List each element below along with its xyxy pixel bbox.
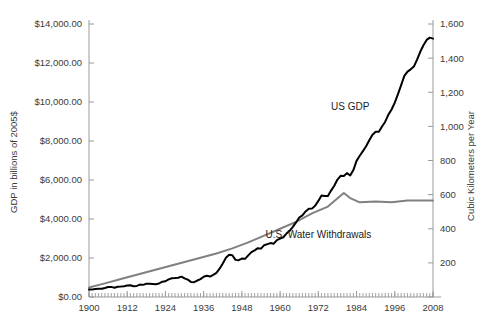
gdp-water-line-chart: $0.00$2,000.00$4,000.00$6,000.00$8,000.0… [0, 0, 492, 333]
y-axis-right-tick-label: 600 [440, 189, 456, 200]
y-axis-right-tick-label: 400 [440, 223, 456, 234]
y-axis-right-tick-label: 1,200 [440, 87, 464, 98]
x-axis-tick-label: 1924 [155, 302, 176, 313]
y-axis-left-tick-label: $14,000.00 [34, 18, 82, 29]
x-axis-tick-label: 1996 [384, 302, 405, 313]
series-annotations: US GDPU.S. Water Withdrawals [265, 101, 371, 240]
x-axis-tick-label: 1900 [78, 302, 99, 313]
series-line-us-gdp [89, 38, 433, 290]
y-axis-left-tick-label: $6,000.00 [40, 174, 82, 185]
x-axis-tick-label: 1948 [231, 302, 252, 313]
axis-lines [89, 20, 441, 297]
x-axis-tick-label: 1984 [346, 302, 367, 313]
series-annotation-label: U.S. Water Withdrawals [265, 229, 371, 240]
x-axis-tick-label: 1960 [270, 302, 291, 313]
y-axis-right-tick-label: 1,400 [440, 53, 464, 64]
y-axis-right-tick-label: 1,600 [440, 18, 464, 29]
y-axis-left-tick-label: $4,000.00 [40, 213, 82, 224]
x-axis-tick-label: 1912 [117, 302, 138, 313]
y-axis-left-tick-label: $10,000.00 [34, 96, 82, 107]
series-annotation-label: US GDP [331, 101, 370, 112]
x-axis-tick-label: 1972 [308, 302, 329, 313]
y-left-tick-group: $0.00$2,000.00$4,000.00$6,000.00$8,000.0… [34, 18, 94, 302]
y-axis-right-tick-label: 200 [440, 257, 456, 268]
series-line-water-withdrawals [89, 193, 433, 288]
x-axis-tick-label: 1936 [193, 302, 214, 313]
series-group [89, 38, 433, 290]
y-axis-right-title: Cubic Kilometers per Year [465, 111, 476, 221]
chart-container: $0.00$2,000.00$4,000.00$6,000.00$8,000.0… [0, 0, 492, 333]
y-axis-left-title: GDP in billions of 2005$ [8, 110, 19, 212]
y-axis-left-tick-label: $8,000.00 [40, 135, 82, 146]
y-axis-left-tick-label: $2,000.00 [40, 252, 82, 263]
y-axis-left-tick-label: $0.00 [58, 291, 82, 302]
y-axis-right-tick-label: 1,000 [440, 121, 464, 132]
y-axis-right-tick-label: 800 [440, 155, 456, 166]
y-axis-left-tick-label: $12,000.00 [34, 57, 82, 68]
x-axis-tick-label: 2008 [422, 302, 443, 313]
x-minor-tick-group [89, 293, 433, 297]
